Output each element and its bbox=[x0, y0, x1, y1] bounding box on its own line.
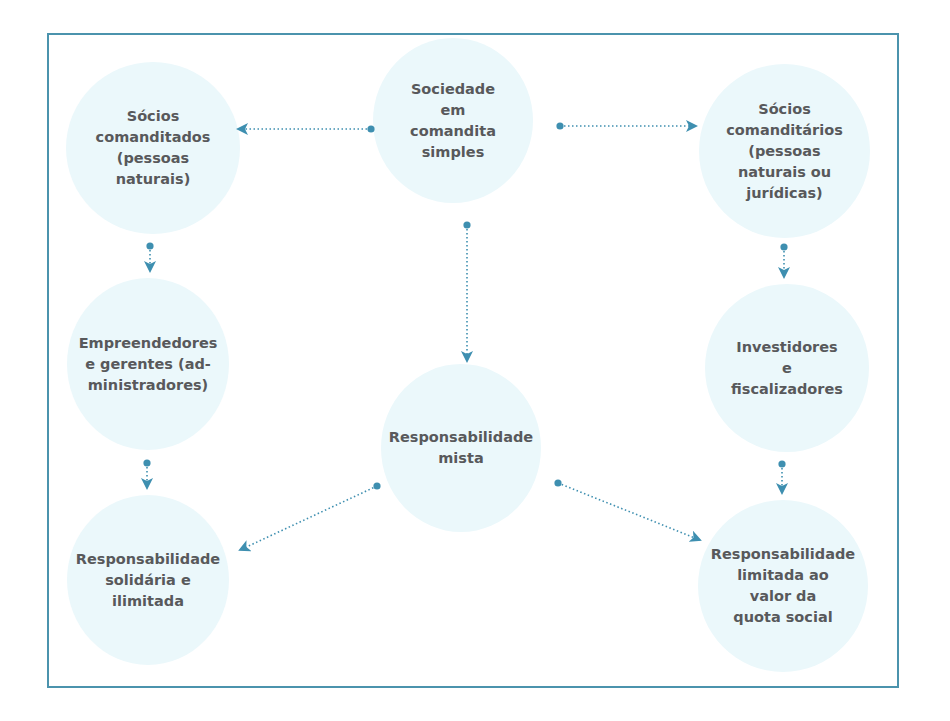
connector-mista-to-limitada bbox=[558, 483, 700, 540]
connector-origin-dot bbox=[780, 243, 787, 250]
connector-origin-dot bbox=[373, 482, 380, 489]
connector-origin-dot bbox=[556, 122, 563, 129]
connector-origin-dot bbox=[367, 125, 374, 132]
connector-mista-to-solidaria bbox=[240, 486, 377, 550]
connector-origin-dot bbox=[463, 221, 470, 228]
connectors-layer bbox=[0, 0, 950, 721]
connector-origin-dot bbox=[143, 459, 150, 466]
connector-origin-dot bbox=[554, 479, 561, 486]
connector-origin-dot bbox=[778, 460, 785, 467]
connector-origin-dot bbox=[146, 242, 153, 249]
